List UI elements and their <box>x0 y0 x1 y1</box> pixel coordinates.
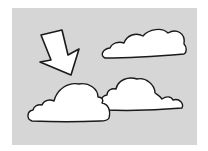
gray-panel <box>12 8 197 145</box>
illustration-canvas <box>0 0 208 151</box>
